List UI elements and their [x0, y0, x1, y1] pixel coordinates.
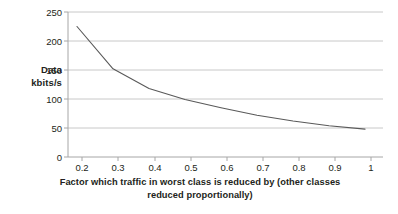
x-tick-label-0-8: 0.8: [284, 163, 314, 173]
data-line-series-0: [77, 27, 365, 130]
y-axis-ticks: [64, 12, 68, 157]
x-axis-ticks: [82, 157, 371, 161]
x-axis-title-line2: reduced proportionally): [22, 189, 378, 202]
x-tick-label-0-2: 0.2: [67, 163, 97, 173]
x-tick-label-0-4: 0.4: [140, 163, 170, 173]
x-tick-label-0-3: 0.3: [103, 163, 133, 173]
x-tick-label-0-9: 0.9: [320, 163, 350, 173]
x-axis-title-line1: Factor which traffic in worst class is r…: [22, 176, 378, 189]
x-tick-label-0-5: 0.5: [176, 163, 206, 173]
x-tick-label-1: 1: [356, 163, 386, 173]
x-axis-title: Factor which traffic in worst class is r…: [22, 176, 378, 201]
x-tick-label-0-7: 0.7: [248, 163, 278, 173]
chart-container: Data kbits/s 250 200 150 100 50 0: [0, 0, 398, 214]
x-tick-label-0-6: 0.6: [212, 163, 242, 173]
